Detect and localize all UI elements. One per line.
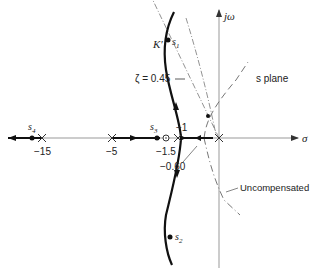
root-locus-diagram: σ jω s1 s2 s3 s4 K′: [0, 0, 315, 273]
point-s4: [30, 136, 35, 141]
uncompensated-point: [206, 114, 210, 118]
tick-minus-5: −5: [106, 146, 118, 157]
compensated-locus-lower: [165, 138, 181, 265]
gain-label: K′: [152, 38, 163, 50]
tick-minus-1-5: −1.5: [156, 146, 176, 157]
damping-ratio-line-lower: [160, 45, 219, 138]
point-s1: [166, 38, 171, 43]
uncompensated-left-upper: [186, 18, 216, 135]
label-s3: s3: [150, 121, 158, 135]
label-s1: s1: [172, 36, 179, 50]
uncompensated-locus-upper: [204, 62, 248, 138]
jw-label: jω: [222, 10, 235, 22]
zero-center-dot: [165, 137, 167, 139]
uncompensated-leader: [226, 188, 238, 192]
tick-minus-15: −15: [34, 146, 51, 157]
label-s2: s2: [175, 231, 183, 245]
uncompensated-locus-lower: [204, 138, 240, 215]
s-plane-label: s plane: [256, 73, 289, 84]
damping-ratio-label: ζ = 0.45: [135, 73, 171, 85]
arrow-right-right: [180, 135, 186, 141]
arrow-right-mid: [130, 135, 138, 141]
arrow-left-right: [195, 135, 201, 141]
sigma-label: σ: [302, 132, 308, 144]
tick-minus-0-60: −0.60: [160, 161, 186, 172]
arrow-left-s4: [8, 135, 16, 141]
tick-minus-1: −1: [176, 122, 188, 133]
label-s4: s4: [28, 121, 36, 135]
point-s2: [168, 235, 173, 240]
imaginary-axis: jω: [219, 10, 235, 268]
point-s3: [155, 136, 160, 141]
tick-0-60-leader: [183, 146, 197, 162]
uncompensated-label: Uncompensated: [240, 182, 309, 193]
